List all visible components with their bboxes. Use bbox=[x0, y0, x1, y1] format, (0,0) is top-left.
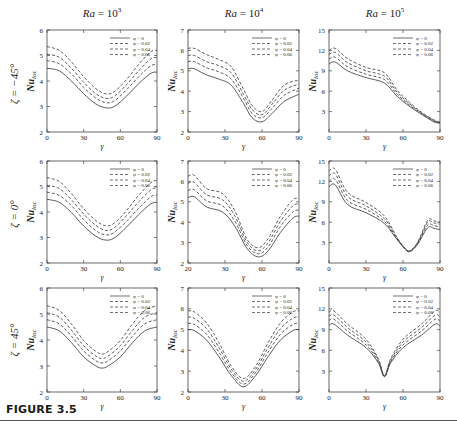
legend-entry: φ = 0.02 bbox=[133, 172, 150, 177]
svg-text:12: 12 bbox=[318, 47, 326, 55]
legend-entry: φ = 0.04 bbox=[133, 47, 150, 52]
legend-entry: φ = 0.02 bbox=[416, 172, 433, 177]
svg-text:60: 60 bbox=[259, 265, 267, 273]
svg-text:6: 6 bbox=[181, 47, 185, 55]
legend-entry: φ = 0.04 bbox=[133, 178, 150, 183]
legend-entry: φ = 0.06 bbox=[275, 183, 292, 188]
svg-text:3: 3 bbox=[181, 108, 185, 116]
x-axis-label: γ bbox=[242, 402, 246, 411]
svg-text:30: 30 bbox=[222, 134, 230, 142]
series-line bbox=[188, 68, 299, 122]
svg-text:2: 2 bbox=[40, 389, 44, 397]
series-line bbox=[329, 57, 440, 123]
legend-entry: φ = 0 bbox=[416, 167, 427, 172]
legend-entry: φ = 0.02 bbox=[133, 299, 150, 304]
x-axis-label: γ bbox=[383, 142, 387, 151]
series-line bbox=[47, 320, 157, 363]
svg-text:90: 90 bbox=[437, 394, 445, 402]
legend-entry: φ = 0.04 bbox=[416, 47, 433, 52]
svg-text:6: 6 bbox=[40, 158, 44, 166]
series-line bbox=[47, 313, 157, 359]
svg-text:0: 0 bbox=[186, 134, 190, 142]
svg-text:90: 90 bbox=[154, 134, 162, 142]
legend-entry: φ = 0.04 bbox=[275, 305, 292, 310]
svg-text:15: 15 bbox=[318, 285, 326, 293]
svg-text:9: 9 bbox=[322, 67, 326, 75]
svg-text:3: 3 bbox=[322, 108, 326, 116]
series-line bbox=[47, 185, 157, 230]
svg-text:2: 2 bbox=[181, 389, 185, 397]
series-line bbox=[329, 314, 440, 376]
figure: Ra = 103 Ra = 104 Ra = 105 ζ = −45° ζ = … bbox=[0, 0, 457, 428]
chart-panel-row3-col2: 2345670306090γNulocφ = 0φ = 0.02φ = 0.04… bbox=[166, 285, 303, 412]
legend-entry: φ = 0.02 bbox=[416, 299, 433, 304]
legend-entry: φ = 0.04 bbox=[416, 178, 433, 183]
svg-text:5: 5 bbox=[181, 198, 185, 206]
svg-text:30: 30 bbox=[80, 265, 88, 273]
svg-text:60: 60 bbox=[259, 134, 267, 142]
series-line bbox=[188, 48, 299, 112]
svg-text:3: 3 bbox=[181, 239, 185, 247]
y-axis-label: Nuloc bbox=[307, 69, 320, 92]
svg-text:12: 12 bbox=[318, 178, 326, 186]
series-line bbox=[47, 192, 157, 235]
svg-text:4: 4 bbox=[181, 88, 185, 96]
svg-text:5: 5 bbox=[181, 326, 185, 334]
svg-text:90: 90 bbox=[154, 394, 162, 402]
svg-text:3: 3 bbox=[40, 234, 44, 242]
plot-grid: 234560306090γNulocφ = 0φ = 0.02φ = 0.04φ… bbox=[0, 0, 457, 428]
svg-text:60: 60 bbox=[259, 394, 267, 402]
series-line bbox=[188, 323, 299, 384]
legend-entry: φ = 0.04 bbox=[275, 47, 292, 52]
legend-entry: φ = 0.06 bbox=[416, 310, 433, 315]
series-line bbox=[188, 317, 299, 381]
series-line bbox=[329, 310, 440, 375]
chart-panel-row3-col1: 234560306090γNulocφ = 0φ = 0.02φ = 0.04φ… bbox=[25, 285, 161, 412]
series-line bbox=[47, 327, 157, 368]
y-axis-label: Nuloc bbox=[166, 200, 179, 223]
svg-text:4: 4 bbox=[40, 209, 44, 217]
svg-text:0: 0 bbox=[327, 134, 331, 142]
x-axis-label: γ bbox=[100, 273, 104, 282]
svg-text:3: 3 bbox=[322, 239, 326, 247]
svg-text:90: 90 bbox=[296, 134, 304, 142]
legend-entry: φ = 0.02 bbox=[133, 41, 150, 46]
svg-text:7: 7 bbox=[181, 27, 185, 35]
svg-text:90: 90 bbox=[437, 134, 445, 142]
legend-entry: φ = 0.02 bbox=[275, 172, 292, 177]
svg-text:5: 5 bbox=[181, 67, 185, 75]
svg-text:30: 30 bbox=[363, 265, 371, 273]
y-axis-label: Nuloc bbox=[307, 328, 320, 351]
svg-text:15: 15 bbox=[318, 27, 326, 35]
svg-text:2: 2 bbox=[40, 129, 44, 137]
x-axis-label: γ bbox=[242, 273, 246, 282]
svg-text:60: 60 bbox=[117, 394, 125, 402]
svg-text:5: 5 bbox=[40, 183, 44, 191]
svg-text:60: 60 bbox=[117, 134, 125, 142]
chart-panel-row1-col3: 36912150306090γNulocφ = 0φ = 0.02φ = 0.0… bbox=[307, 27, 444, 152]
x-axis-label: γ bbox=[383, 273, 387, 282]
svg-text:6: 6 bbox=[322, 88, 326, 96]
legend-entry: φ = 0 bbox=[275, 36, 286, 41]
legend-entry: φ = 0.06 bbox=[275, 310, 292, 315]
legend-entry: φ = 0 bbox=[416, 294, 427, 299]
legend-entry: φ = 0 bbox=[133, 36, 144, 41]
x-axis-label: γ bbox=[100, 142, 104, 151]
svg-text:0: 0 bbox=[327, 394, 331, 402]
svg-text:3: 3 bbox=[322, 368, 326, 376]
series-line bbox=[329, 52, 440, 122]
svg-text:12: 12 bbox=[318, 305, 326, 313]
legend-entry: φ = 0.06 bbox=[416, 52, 433, 57]
x-axis-label: γ bbox=[383, 402, 387, 411]
legend-entry: φ = 0.06 bbox=[133, 310, 150, 315]
legend-entry: φ = 0 bbox=[275, 294, 286, 299]
svg-text:90: 90 bbox=[154, 265, 162, 273]
series-line bbox=[329, 324, 440, 377]
svg-text:60: 60 bbox=[400, 134, 408, 142]
legend-entry: φ = 0.06 bbox=[416, 183, 433, 188]
svg-text:0: 0 bbox=[45, 265, 49, 273]
svg-text:3: 3 bbox=[40, 103, 44, 111]
legend-entry: φ = 0.04 bbox=[133, 305, 150, 310]
svg-text:4: 4 bbox=[181, 347, 185, 355]
svg-text:20: 20 bbox=[185, 265, 193, 273]
